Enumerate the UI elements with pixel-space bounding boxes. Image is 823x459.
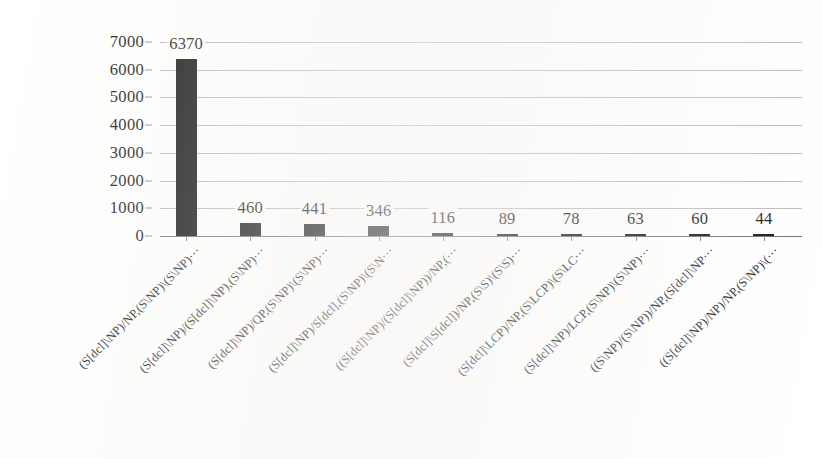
y-axis-tick-label: 3000 <box>110 143 144 163</box>
x-axis-category-label: (S[dcl]\NP)/S[dcl],(S\NP)\(S\N··· <box>265 244 397 376</box>
x-axis-category-label: (S[dcl]\NP)/NP,(S\NP)\(S\NP)··· <box>76 244 204 372</box>
y-axis-tick-mark <box>145 125 152 126</box>
plot-area: 63704604413461168978636044 <box>160 42 802 236</box>
y-axis-tick-label: 2000 <box>110 171 144 191</box>
y-axis-tick-mark <box>145 208 152 209</box>
bar-value-label: 63 <box>625 209 646 229</box>
bar[interactable] <box>176 59 197 236</box>
y-axis-tick-mark <box>145 180 152 181</box>
bar-value-label: 441 <box>300 199 329 219</box>
x-axis-category-label: ((S\NP)/(S\NP))/NP,(S[dcl]\NP··· <box>587 244 718 375</box>
bar-chart-figure: 01000200030004000500060007000 6370460441… <box>0 0 823 459</box>
bar-value-label: 6370 <box>167 34 205 54</box>
x-axis-category-label: ((S[dcl]\NP)/NP)/NP,(S\NP)\(··· <box>656 244 782 370</box>
gridline <box>160 125 802 126</box>
bar-value-label: 60 <box>689 209 710 229</box>
gridline <box>160 153 802 154</box>
y-axis-tick-mark <box>145 97 152 98</box>
gridline <box>160 97 802 98</box>
bar[interactable] <box>368 226 389 236</box>
x-axis: (S[dcl]\NP)/NP,(S\NP)\(S\NP)···(S[dcl]\N… <box>0 236 823 436</box>
x-axis-category-label: (S[dcl]\NP)/(S[dcl]\NP),(S\NP)··· <box>137 244 269 376</box>
gridline <box>160 42 802 43</box>
x-axis-category-label: (S[dcl]\NP)/LCP,(S\NP)\(S\NP)··· <box>520 244 653 377</box>
y-axis-tick-mark <box>145 69 152 70</box>
bar-value-label: 116 <box>429 208 458 228</box>
y-axis-tick-mark <box>145 152 152 153</box>
bar-value-label: 78 <box>561 209 582 229</box>
y-axis: 01000200030004000500060007000 <box>96 42 152 236</box>
y-axis-tick-mark <box>145 42 152 43</box>
x-axis-category-label: (S[dcl]\LCP)/NP,(S\LCP)\(S\LC··· <box>455 244 590 379</box>
bar-value-label: 460 <box>236 198 265 218</box>
bar[interactable] <box>240 223 261 236</box>
x-axis-category-label: (S[dcl]\S[dcl])/NP,(S\S)\(S\S)··· <box>400 244 526 370</box>
y-axis-tick-label: 6000 <box>110 60 144 80</box>
bar-value-label: 44 <box>753 209 774 229</box>
bar-value-label: 89 <box>497 209 518 229</box>
y-axis-tick-label: 1000 <box>110 198 144 218</box>
gridline <box>160 70 802 71</box>
y-axis-tick-label: 7000 <box>110 32 144 52</box>
y-axis-tick-label: 4000 <box>110 115 144 135</box>
gridline <box>160 181 802 182</box>
x-axis-category-label: (S[dcl]\NP)/QP,(S\NP)\(S\NP)··· <box>204 244 332 372</box>
y-axis-tick-label: 5000 <box>110 87 144 107</box>
x-axis-category-label: ((S[dcl]\NP)/(S[dcl]\NP))/NP,(··· <box>332 244 461 374</box>
bar[interactable] <box>304 224 325 236</box>
bar-value-label: 346 <box>364 201 393 221</box>
